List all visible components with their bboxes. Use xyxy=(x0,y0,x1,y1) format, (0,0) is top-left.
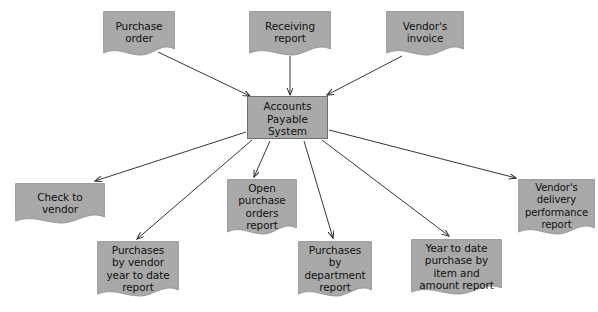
node-purchase-order-label: Purchase order xyxy=(103,20,175,45)
node-purchases-by-vendor-year-to-date-report[interactable]: Purchases by vendor year to date report xyxy=(97,241,179,301)
node-open-purchase-orders-report[interactable]: Open purchase orders report xyxy=(227,179,297,239)
node-receiving-report-label: Receiving report xyxy=(249,20,331,45)
node-purchases-by-vendor-label: Purchases by vendor year to date report xyxy=(97,244,179,294)
arrow-system-to-check-to-vendor xyxy=(95,132,246,181)
system-flowchart-diagram: Purchase order Receiving report Vendor's… xyxy=(0,0,598,312)
node-purchases-by-department-report[interactable]: Purchases by department report xyxy=(298,241,372,301)
arrow-system-to-vendors-delivery-performance xyxy=(329,130,516,178)
node-check-to-vendor[interactable]: Check to vendor xyxy=(15,183,105,227)
node-purchases-by-department-label: Purchases by department report xyxy=(298,244,372,294)
node-year-to-date-purchase-label: Year to date purchase by item and amount… xyxy=(411,242,502,292)
node-accounts-payable-system[interactable]: Accounts Payable System xyxy=(247,96,328,139)
node-open-purchase-orders-label: Open purchase orders report xyxy=(227,182,297,232)
node-year-to-date-purchase-by-item-and-amount-report[interactable]: Year to date purchase by item and amount… xyxy=(411,239,502,299)
node-vendors-invoice[interactable]: Vendor's invoice xyxy=(386,11,464,59)
node-vendors-delivery-performance-label: Vendor's delivery performance report xyxy=(518,182,595,232)
arrow-vendors-invoice-to-system xyxy=(327,56,402,95)
node-accounts-payable-system-label: Accounts Payable System xyxy=(248,100,327,138)
arrow-system-to-purchases-by-department xyxy=(304,141,333,238)
arrow-system-to-year-to-date-purchase xyxy=(322,140,449,236)
node-vendors-delivery-performance-report[interactable]: Vendor's delivery performance report xyxy=(518,179,595,239)
node-check-to-vendor-label: Check to vendor xyxy=(15,191,105,216)
node-purchase-order[interactable]: Purchase order xyxy=(103,11,175,59)
node-vendors-invoice-label: Vendor's invoice xyxy=(386,20,464,45)
arrow-system-to-open-purchase-orders xyxy=(254,141,270,177)
node-receiving-report[interactable]: Receiving report xyxy=(249,11,331,59)
